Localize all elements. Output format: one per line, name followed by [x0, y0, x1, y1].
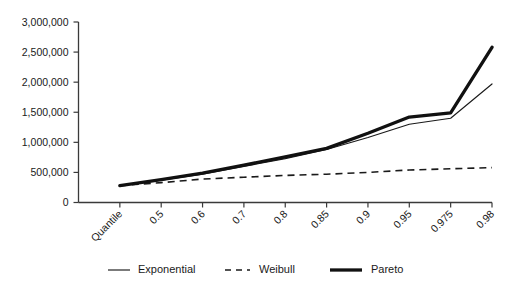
y-tick-label: 1,500,000: [22, 106, 69, 118]
x-tick-label: 0.975: [428, 207, 455, 234]
x-tick-label: 0.7: [229, 207, 248, 226]
series-line-pareto: [120, 47, 492, 185]
legend: Exponential Weibull Pareto: [108, 263, 403, 275]
x-tick-label: 0.85: [308, 207, 331, 230]
legend-label-weibull: Weibull: [259, 263, 295, 275]
x-axis-tick-labels: Quantile0.50.60.70.80.850.90.950.9750.98: [88, 207, 496, 243]
y-tick-label: 2,500,000: [22, 46, 69, 58]
x-tick-label: 0.5: [147, 207, 166, 226]
series-line-exponential: [120, 84, 492, 186]
legend-label-pareto: Pareto: [371, 263, 403, 275]
legend-label-exponential: Exponential: [138, 263, 196, 275]
legend-item-pareto: Pareto: [330, 263, 403, 275]
x-tick-label: 0.9: [354, 207, 373, 226]
legend-item-exponential: Exponential: [108, 263, 196, 275]
x-tick-label: 0.8: [271, 207, 290, 226]
y-axis-tick-labels: 0500,0001,000,0001,500,0002,000,0002,500…: [22, 16, 69, 209]
x-axis-ticks: [120, 203, 492, 208]
y-tick-label: 500,000: [31, 166, 69, 178]
plot-series-group: [120, 47, 492, 185]
legend-item-weibull: Weibull: [225, 263, 295, 275]
y-tick-label: 0: [63, 196, 69, 208]
y-axis: 0500,0001,000,0001,500,0002,000,0002,500…: [22, 16, 79, 209]
x-axis: Quantile0.50.60.70.80.850.90.950.9750.98: [79, 203, 497, 244]
x-tick-label: Quantile: [88, 207, 124, 243]
x-tick-label: 0.6: [188, 207, 207, 226]
quantile-comparison-chart: 0500,0001,000,0001,500,0002,000,0002,500…: [0, 0, 522, 290]
y-axis-ticks: [74, 22, 79, 203]
y-tick-label: 2,000,000: [22, 76, 69, 88]
y-tick-label: 1,000,000: [22, 136, 69, 148]
x-tick-label: 0.98: [473, 207, 496, 230]
x-tick-label: 0.95: [391, 207, 414, 230]
y-tick-label: 3,000,000: [22, 16, 69, 28]
chart-svg: 0500,0001,000,0001,500,0002,000,0002,500…: [0, 0, 522, 290]
